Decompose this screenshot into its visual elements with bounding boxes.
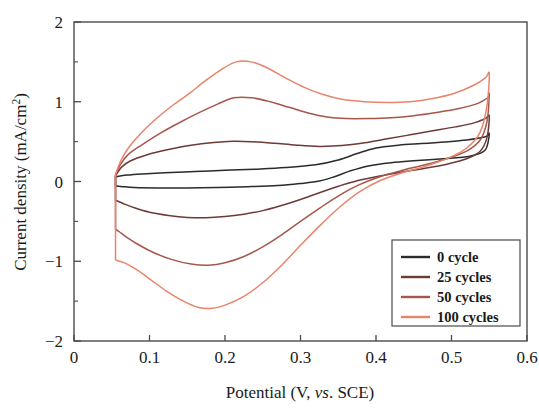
x-tick-label: 0.6: [516, 348, 537, 367]
legend-label: 100 cycles: [437, 309, 499, 325]
x-tick-label: 0.1: [139, 348, 160, 367]
y-tick-label: 0: [55, 173, 64, 192]
legend: 0 cycle25 cycles50 cycles100 cycles: [392, 240, 520, 326]
x-tick-label: 0.5: [441, 348, 462, 367]
legend-label: 25 cycles: [437, 269, 492, 285]
curve-0-cycle: [116, 133, 490, 188]
x-axis-title: Potential (V, vs. SCE): [226, 383, 374, 402]
y-axis-title: Current density (mA/cm2): [10, 93, 30, 271]
x-tick-label: 0.3: [290, 348, 311, 367]
y-tick-label: 2: [55, 13, 64, 32]
y-tick-labels: −2−1012: [45, 13, 63, 351]
x-tick-labels: 00.10.20.30.40.50.6: [70, 348, 538, 367]
y-tick-label: 1: [55, 93, 64, 112]
plot-area: 00.10.20.30.40.50.6 −2−1012 0 cycle25 cy…: [0, 0, 539, 408]
legend-label: 0 cycle: [437, 249, 479, 265]
cyclic-voltammetry-figure: 00.10.20.30.40.50.6 −2−1012 0 cycle25 cy…: [0, 0, 539, 408]
y-tick-label: −2: [45, 332, 63, 351]
y-tick-label: −1: [45, 252, 63, 271]
x-tick-label: 0.2: [214, 348, 235, 367]
x-tick-label: 0: [70, 348, 79, 367]
x-tick-label: 0.4: [365, 348, 387, 367]
legend-label: 50 cycles: [437, 289, 492, 305]
